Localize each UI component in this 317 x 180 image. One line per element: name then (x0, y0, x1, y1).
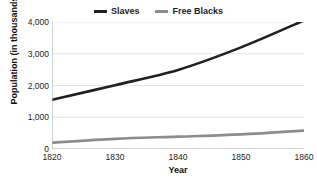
x-tick-label-1830: 1830 (106, 152, 125, 162)
legend-label-slaves: Slaves (111, 6, 140, 16)
plot-area (52, 22, 304, 149)
y-axis-ticks: 01,0002,0003,0004,000 (16, 22, 49, 149)
x-tick-label-1820: 1820 (43, 152, 62, 162)
line-chart: Slaves Free Blacks Population (in thousa… (0, 0, 317, 180)
x-tick-label-1860: 1860 (295, 152, 314, 162)
x-axis-ticks: 18201830184018501860 (52, 152, 304, 164)
legend-swatch-free-blacks (155, 10, 168, 13)
x-tick-label-1840: 1840 (169, 152, 188, 162)
plot-svg (52, 22, 304, 149)
x-tick-label-1850: 1850 (232, 152, 251, 162)
chart-legend: Slaves Free Blacks (0, 6, 317, 16)
legend-item-slaves: Slaves (94, 6, 140, 16)
series-line-slaves (52, 22, 304, 100)
y-tick-label-2000: 2,000 (16, 81, 49, 90)
series-line-free-blacks (52, 131, 304, 143)
x-axis-title: Year (52, 165, 304, 175)
y-tick-label-3000: 3,000 (16, 49, 49, 58)
legend-swatch-slaves (94, 10, 107, 13)
y-tick-label-4000: 4,000 (16, 18, 49, 27)
y-tick-label-1000: 1,000 (16, 113, 49, 122)
legend-label-free-blacks: Free Blacks (172, 6, 223, 16)
legend-item-free-blacks: Free Blacks (155, 6, 223, 16)
